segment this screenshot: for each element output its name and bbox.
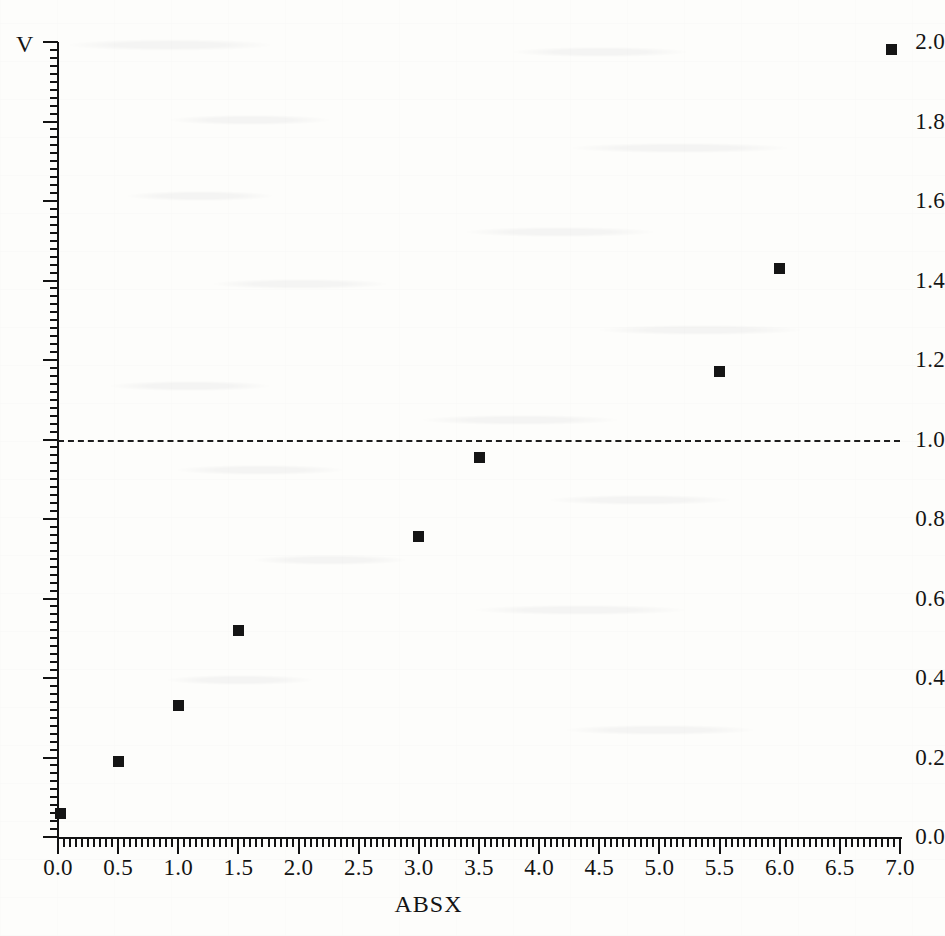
- x-axis-minor-tick: [225, 839, 227, 847]
- x-axis-minor-tick: [761, 839, 763, 847]
- y-axis-minor-tick: [50, 89, 58, 91]
- x-axis-minor-tick: [310, 839, 312, 847]
- x-axis-minor-tick: [346, 839, 348, 847]
- x-axis-minor-tick: [69, 839, 71, 847]
- y-axis-minor-tick: [50, 621, 58, 623]
- x-axis-minor-tick: [201, 839, 203, 847]
- x-axis-minor-tick: [490, 839, 492, 847]
- y-axis-minor-tick: [50, 534, 58, 536]
- data-point-marker: [113, 756, 124, 767]
- x-axis-minor-tick: [340, 839, 342, 847]
- x-axis-minor-tick: [159, 839, 161, 847]
- x-axis-minor-tick: [153, 839, 155, 847]
- y-axis-major-tick: [43, 359, 58, 361]
- x-axis-major-tick: [358, 839, 360, 854]
- x-axis-tick-label: 0.5: [86, 856, 150, 879]
- y-axis-minor-tick: [50, 478, 58, 480]
- y-axis-major-tick: [43, 41, 58, 43]
- x-axis-minor-tick: [725, 839, 727, 847]
- x-axis-minor-tick: [881, 839, 883, 847]
- y-axis-major-tick: [43, 280, 58, 282]
- x-axis-major-tick: [658, 839, 660, 854]
- x-axis-major-tick: [117, 839, 119, 854]
- y-axis-minor-tick: [50, 105, 58, 107]
- y-axis-minor-tick: [50, 264, 58, 266]
- y-axis-minor-tick: [50, 637, 58, 639]
- x-axis-minor-tick: [268, 839, 270, 847]
- x-axis-minor-tick: [652, 839, 654, 847]
- x-axis-minor-tick: [249, 839, 251, 847]
- x-axis-minor-tick: [328, 839, 330, 847]
- y-axis-minor-tick: [50, 454, 58, 456]
- x-axis-minor-tick: [382, 839, 384, 847]
- x-axis-minor-tick: [707, 839, 709, 847]
- x-axis-minor-tick: [364, 839, 366, 847]
- x-axis-tick-label: 5.5: [688, 856, 752, 879]
- x-axis-minor-tick: [75, 839, 77, 847]
- x-axis-minor-tick: [827, 839, 829, 847]
- y-axis-minor-tick: [50, 693, 58, 695]
- x-axis-minor-tick: [189, 839, 191, 847]
- x-axis-minor-tick: [701, 839, 703, 847]
- y-axis-major-tick: [43, 518, 58, 520]
- x-axis-minor-tick: [520, 839, 522, 847]
- x-axis-minor-tick: [803, 839, 805, 847]
- y-axis-minor-tick: [50, 582, 58, 584]
- x-axis-title: ABSX: [0, 892, 901, 916]
- x-axis-minor-tick: [791, 839, 793, 847]
- x-axis-minor-tick: [785, 839, 787, 847]
- x-axis-minor-tick: [412, 839, 414, 847]
- data-point-marker: [886, 44, 897, 55]
- x-axis-minor-tick: [376, 839, 378, 847]
- y-axis-minor-tick: [50, 168, 58, 170]
- x-axis-minor-tick: [857, 839, 859, 847]
- x-axis-minor-tick: [544, 839, 546, 847]
- y-axis-minor-tick: [50, 128, 58, 130]
- x-axis-minor-tick: [670, 839, 672, 847]
- y-axis-major-tick: [43, 677, 58, 679]
- y-axis-minor-tick: [50, 303, 58, 305]
- x-axis-minor-tick: [550, 839, 552, 847]
- x-axis-minor-tick: [875, 839, 877, 847]
- x-axis-major-tick: [478, 839, 480, 854]
- x-axis-minor-tick: [731, 839, 733, 847]
- y-axis-minor-tick: [50, 73, 58, 75]
- x-axis-minor-tick: [586, 839, 588, 847]
- x-axis-minor-tick: [767, 839, 769, 847]
- y-axis-minor-tick: [50, 645, 58, 647]
- x-axis-minor-tick: [532, 839, 534, 847]
- x-axis-minor-tick: [261, 839, 263, 847]
- x-axis-minor-tick: [105, 839, 107, 847]
- y-axis-tick-label: 1.6: [903, 189, 945, 212]
- y-axis-minor-tick: [50, 788, 58, 790]
- y-axis-minor-tick: [50, 407, 58, 409]
- y-axis-minor-tick: [50, 574, 58, 576]
- y-axis-minor-tick: [50, 240, 58, 242]
- x-axis-minor-tick: [514, 839, 516, 847]
- x-axis-minor-tick: [460, 839, 462, 847]
- x-axis-major-tick: [598, 839, 600, 854]
- y-axis-minor-tick: [50, 661, 58, 663]
- y-axis-minor-tick: [50, 224, 58, 226]
- x-axis-minor-tick: [676, 839, 678, 847]
- y-axis-minor-tick: [50, 717, 58, 719]
- y-axis-minor-tick: [50, 327, 58, 329]
- x-axis-minor-tick: [370, 839, 372, 847]
- y-axis-tick-label: 0.2: [903, 746, 945, 769]
- y-axis-tick-label: 1.2: [903, 348, 945, 371]
- y-axis-minor-tick: [50, 343, 58, 345]
- y-axis-minor-tick: [50, 764, 58, 766]
- x-axis-minor-tick: [743, 839, 745, 847]
- plot-area: 0.00.20.40.60.81.01.21.41.61.82.0 0.00.5…: [0, 0, 945, 936]
- y-axis-tick-label: 0.4: [903, 666, 945, 689]
- x-axis-minor-tick: [292, 839, 294, 847]
- y-axis-minor-tick: [50, 820, 58, 822]
- x-axis-minor-tick: [851, 839, 853, 847]
- y-axis-minor-tick: [50, 550, 58, 552]
- y-axis-minor-tick: [50, 780, 58, 782]
- y-axis-minor-tick: [50, 669, 58, 671]
- x-axis-minor-tick: [592, 839, 594, 847]
- y-axis-minor-tick: [50, 446, 58, 448]
- x-axis-minor-tick: [207, 839, 209, 847]
- x-axis-major-tick: [779, 839, 781, 854]
